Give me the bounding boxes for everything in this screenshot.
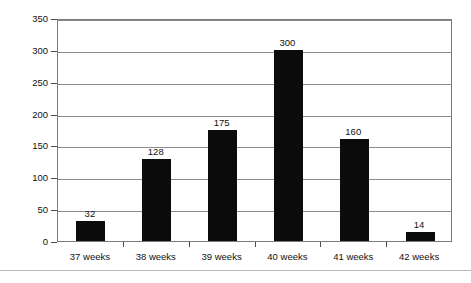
x-axis-tick-label: 42 weeks [379,251,459,262]
y-axis-tick [51,242,57,243]
bar [406,232,435,241]
x-axis-tick [386,242,387,247]
y-axis-tick [51,115,57,116]
y-axis-tick [51,19,57,20]
y-axis-tick [51,178,57,179]
bar [274,50,303,241]
bar-value-label: 160 [333,127,373,137]
x-axis-tick [255,242,256,247]
y-axis-tick [51,146,57,147]
bar-value-label: 175 [202,118,242,128]
y-axis-tick-label: 0 [17,237,48,247]
gridline [58,84,451,85]
bar-value-label: 14 [399,220,439,230]
y-axis-tick [51,210,57,211]
y-axis-tick-label: 50 [17,205,48,215]
plot-area [57,19,452,242]
y-axis-tick-label: 350 [17,14,48,24]
bar-value-label: 300 [267,38,307,48]
y-axis-tick-label: 300 [17,46,48,56]
x-axis-tick [189,242,190,247]
y-axis-tick-label: 100 [17,173,48,183]
bar [340,139,369,241]
gridline [58,116,451,117]
gridline [58,211,451,212]
gridline [58,52,451,53]
gridline [58,147,451,148]
bar [142,159,171,241]
x-axis-tick [320,242,321,247]
bar-value-label: 32 [70,209,110,219]
gridline [58,20,451,21]
y-axis-tick-label: 200 [17,110,48,120]
y-axis-tick-label: 150 [17,141,48,151]
bar [208,130,237,242]
y-axis-tick-label: 250 [17,78,48,88]
bar-value-label: 128 [136,147,176,157]
gridline [58,179,451,180]
bar-chart-figure: Number of newborns 050100150200250300350… [0,0,471,283]
x-axis-tick [123,242,124,247]
y-axis-tick [51,83,57,84]
bar [76,221,105,241]
y-axis-tick [51,51,57,52]
page-divider-rule [0,270,471,271]
